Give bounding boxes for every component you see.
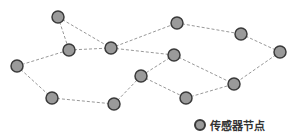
sensor-node-D [46,92,58,104]
sensor-node-F [171,17,183,29]
sensor-node-G [168,49,180,61]
legend-label: 传感器节点 [210,117,265,133]
sensor-node-icon [194,119,206,131]
sensor-node-J [235,28,247,40]
sensor-node-K [274,46,286,58]
sensor-node-H [135,70,147,82]
link-E-F [111,23,177,48]
link-G-L [174,55,234,84]
link-C-D [17,66,52,98]
link-H-I [141,76,186,98]
sensor-node-L [228,78,240,90]
link-C-B [17,50,69,66]
sensor-node-A [52,11,64,23]
sensor-node-B [63,44,75,56]
link-E-G [111,48,174,55]
link-F-J [177,23,241,34]
link-I-L [186,84,234,98]
link-A-E [58,17,111,48]
sensor-node-C [11,60,23,72]
sensor-nodes [11,11,286,110]
sensor-node-M [108,98,120,110]
link-K-L [234,52,280,84]
link-D-M [52,98,114,104]
sensor-node-E [105,42,117,54]
legend: 传感器节点 [194,117,265,133]
sensor-node-I [180,92,192,104]
